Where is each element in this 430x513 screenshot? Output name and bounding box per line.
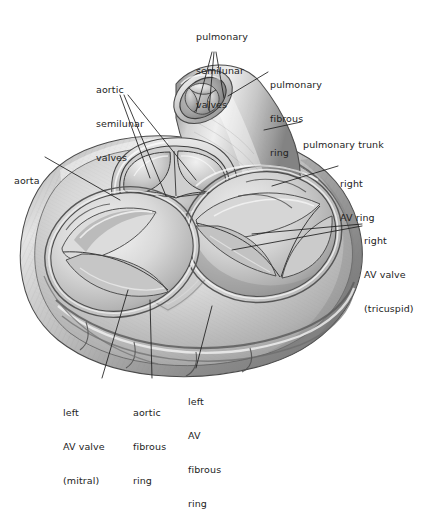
label-line: right <box>340 178 375 189</box>
label-right-av-valve-tricuspid: right AV valve (tricuspid) <box>364 212 414 326</box>
label-pulmonary-semilunar-valves: pulmonary semilunar valves <box>196 8 248 122</box>
label-line: aortic <box>96 84 144 95</box>
label-line: AV valve <box>63 441 105 452</box>
label-line: AV <box>188 430 221 441</box>
label-line: left <box>63 407 105 418</box>
label-line: ring <box>133 475 166 486</box>
label-line: aortic <box>133 407 166 418</box>
label-aortic-semilunar-valves: aortic semilunar valves <box>96 61 144 175</box>
label-line: pulmonary <box>196 31 248 42</box>
label-line: AV valve <box>364 269 414 280</box>
label-line: semilunar <box>96 118 144 129</box>
label-line: semilunar <box>196 65 248 76</box>
label-line: fibrous <box>133 441 166 452</box>
label-line: valves <box>96 152 144 163</box>
label-left-av-valve-mitral: left AV valve (mitral) <box>63 384 105 498</box>
label-line: pulmonary trunk <box>303 139 384 150</box>
label-left-av-fibrous-ring: left AV fibrous ring <box>188 373 221 513</box>
label-aorta: aorta <box>14 152 40 198</box>
label-line: ring <box>188 498 221 509</box>
label-line: right <box>364 235 414 246</box>
label-line: aorta <box>14 175 40 186</box>
label-line: (mitral) <box>63 475 105 486</box>
label-line: fibrous <box>188 464 221 475</box>
label-aortic-fibrous-ring: aortic fibrous ring <box>133 384 166 498</box>
label-line: (tricuspid) <box>364 303 414 314</box>
label-line: valves <box>196 99 248 110</box>
label-line: pulmonary <box>270 79 322 90</box>
label-line: left <box>188 396 221 407</box>
